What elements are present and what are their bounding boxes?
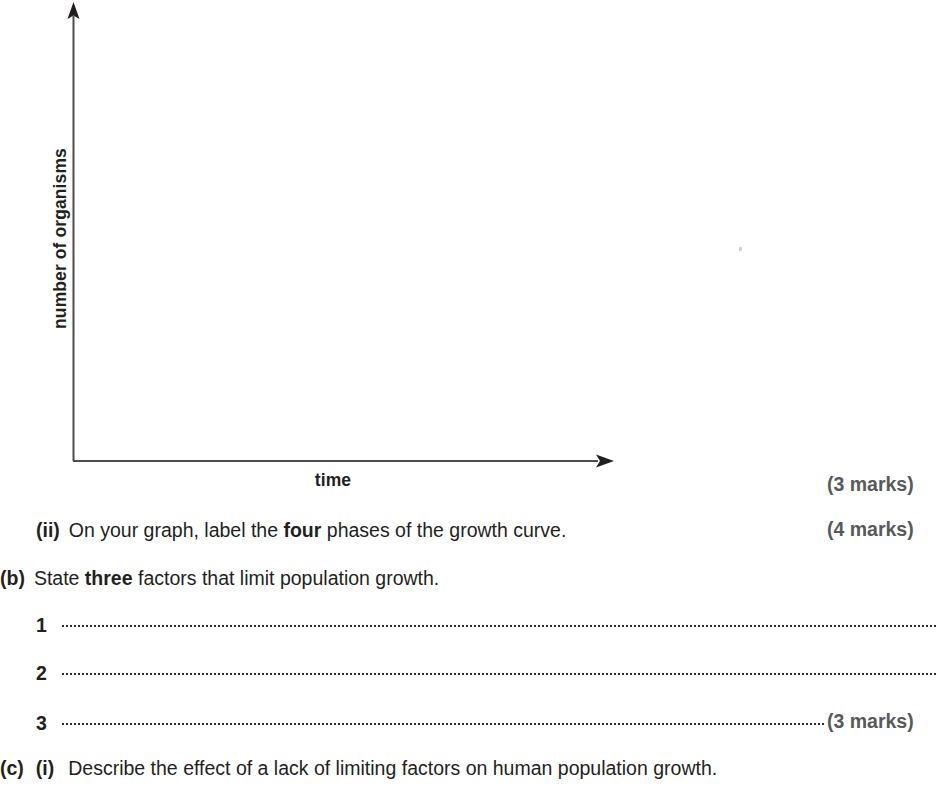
question-text-c-i: Describe the effect of a lack of limitin…: [68, 756, 717, 780]
marks-part-b: (3 marks): [827, 710, 914, 733]
graph-figure: number of organisms time: [0, 0, 660, 500]
marks-graph: (3 marks): [827, 473, 914, 496]
y-axis-label: number of organisms: [50, 124, 71, 354]
axes-svg: [0, 0, 660, 500]
answer-number-2: 2: [36, 662, 56, 685]
question-emphasis-three: three: [85, 567, 133, 589]
question-text-ii: On your graph, label the four phases of …: [69, 518, 567, 542]
answer-line-2[interactable]: 2: [36, 660, 936, 685]
x-axis-label: time: [238, 470, 428, 491]
x-axis-arrowhead-icon: [596, 455, 614, 468]
question-text-b-before: State: [34, 567, 85, 589]
question-part-b: (b) State three factors that limit popul…: [0, 566, 439, 590]
question-label-c: (c): [0, 756, 24, 780]
answer-dotted-rule-3[interactable]: [62, 710, 824, 730]
answer-line-1[interactable]: 1: [36, 612, 936, 637]
question-text-b: State three factors that limit populatio…: [34, 566, 439, 590]
page-speck-artifact: [739, 247, 742, 251]
question-text-b-after: factors that limit population growth.: [133, 567, 440, 589]
question-label-c-i: (i): [36, 756, 54, 780]
answer-dotted-rule-1[interactable]: [62, 612, 936, 632]
question-part-c: (c) (i) Describe the effect of a lack of…: [0, 756, 717, 780]
answer-dotted-rule-2[interactable]: [62, 660, 936, 680]
answer-number-3: 3: [36, 712, 56, 735]
question-emphasis-four: four: [283, 519, 321, 541]
question-label-ii: (ii): [36, 518, 60, 542]
answer-number-1: 1: [36, 614, 56, 637]
marks-part-ii: (4 marks): [827, 518, 914, 541]
question-text-ii-after: phases of the growth curve.: [321, 519, 566, 541]
answer-line-3[interactable]: 3: [36, 710, 824, 735]
question-text-ii-before: On your graph, label the: [69, 519, 284, 541]
question-part-ii: (ii) On your graph, label the four phase…: [36, 518, 566, 542]
question-label-b: (b): [0, 566, 25, 590]
